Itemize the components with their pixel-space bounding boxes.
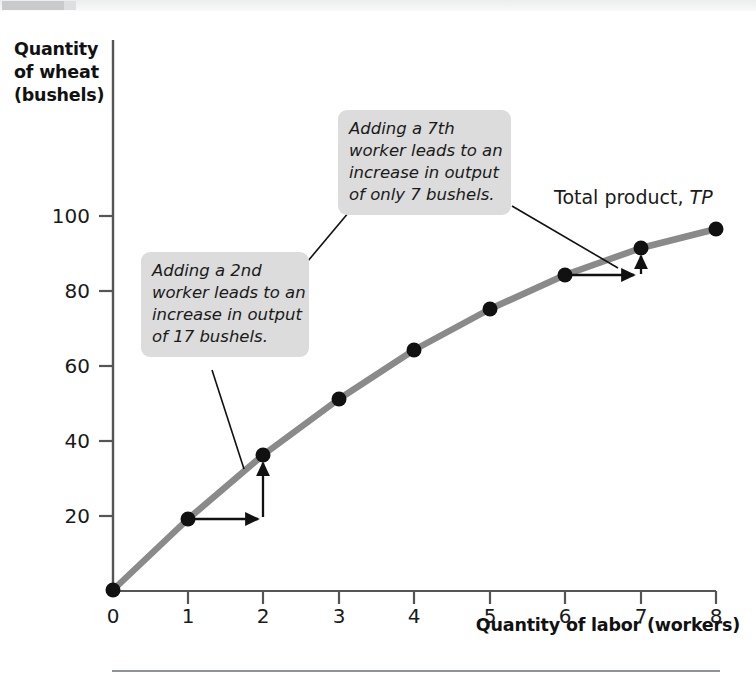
x-tick-label-6: 6 — [550, 604, 580, 628]
data-point-3 — [332, 392, 347, 407]
y-tick-label-40: 40 — [42, 429, 90, 453]
x-tick-label-7: 7 — [626, 604, 656, 628]
callout-second-worker: Adding a 2nd worker leads to an increase… — [141, 252, 309, 357]
callout-second-worker-line-2: worker leads to an — [152, 282, 298, 304]
callout-seventh-worker-line-2: worker leads to an — [349, 140, 500, 162]
data-point-5 — [483, 302, 498, 317]
data-point-7 — [634, 241, 649, 256]
data-point-0 — [106, 583, 121, 598]
y-tick-label-60: 60 — [42, 354, 90, 378]
y-tick-label-20: 20 — [42, 504, 90, 528]
x-tick-label-0: 0 — [98, 604, 128, 628]
callout-seventh-worker-line-1: Adding a 7th — [349, 118, 500, 140]
x-tick-label-5: 5 — [475, 604, 505, 628]
callout-seventh-worker-line-3: increase in output — [349, 162, 500, 184]
y-tick-label-100: 100 — [42, 204, 90, 228]
callout-second-worker-line-1: Adding a 2nd — [152, 260, 298, 282]
data-point-2 — [256, 448, 271, 463]
y-axis-title: Quantity of wheat (bushels) — [14, 38, 124, 107]
callout-leader-7th-right — [512, 206, 618, 268]
y-tick-label-80: 80 — [42, 279, 90, 303]
y-axis-title-line-2: of wheat — [14, 61, 124, 84]
y-axis-title-line-1: Quantity — [14, 38, 124, 61]
callout-seventh-worker-line-4: of only 7 bushels. — [349, 184, 500, 206]
total-product-chart: Quantity of wheat (bushels) Quantity of … — [0, 0, 756, 684]
callout-second-worker-line-3: increase in output — [152, 304, 298, 326]
x-tick-label-3: 3 — [324, 604, 354, 628]
x-tick-label-2: 2 — [248, 604, 278, 628]
series-label-abbreviation: TP — [690, 186, 713, 208]
x-tick-label-1: 1 — [173, 604, 203, 628]
data-point-4 — [407, 343, 422, 358]
series-label-total-product: Total product, TP — [554, 186, 713, 208]
callout-second-worker-line-4: of 17 bushels. — [152, 326, 298, 348]
series-label-text: Total product, — [554, 186, 690, 208]
figure-bottom-rule — [112, 670, 720, 672]
y-axis-title-line-3: (bushels) — [14, 84, 124, 107]
x-tick-label-8: 8 — [701, 604, 731, 628]
callout-seventh-worker: Adding a 7th worker leads to an increase… — [338, 110, 511, 215]
data-point-8 — [709, 222, 724, 237]
x-tick-label-4: 4 — [399, 604, 429, 628]
callout-leader-2nd — [212, 370, 244, 469]
